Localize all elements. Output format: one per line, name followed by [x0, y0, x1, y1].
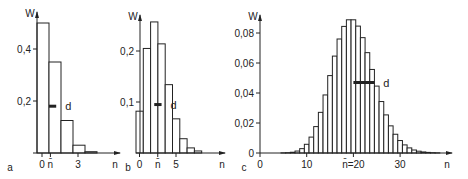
panel-label: a [7, 162, 13, 173]
bar [158, 44, 165, 153]
bar [402, 145, 407, 153]
x-tick-label: 0 [257, 159, 263, 170]
y-axis-arrow-icon [35, 11, 39, 18]
panel-label: b [125, 162, 131, 173]
figure: W0,20,40n̄3nadW0,10,20n̄5nbdW00,020,040,… [0, 0, 468, 179]
bar [332, 56, 337, 153]
x-tick-label: 30 [395, 159, 407, 170]
bar [365, 53, 370, 153]
x-axis-label: n [444, 159, 450, 170]
y-axis-label: W [25, 8, 35, 19]
y-tick-label: 0,4 [17, 44, 31, 55]
bar [393, 134, 398, 153]
d-label: d [383, 77, 389, 89]
bar [407, 148, 412, 153]
chart-panel-a: W0,20,40n̄3nad [7, 8, 121, 173]
bar [356, 26, 361, 153]
x-tick-label: n̄ [155, 158, 161, 170]
y-axis-label: W [248, 11, 258, 22]
bar [309, 137, 314, 153]
bar [143, 48, 150, 153]
bar [151, 22, 158, 153]
bar [379, 102, 384, 153]
bar [346, 20, 351, 153]
bar [173, 119, 180, 153]
bar [342, 26, 347, 153]
x-tick-label: 0 [39, 159, 45, 170]
y-tick-label: 0,08 [235, 28, 255, 39]
bar [351, 20, 356, 153]
bar [360, 38, 365, 153]
y-axis-arrow-icon [138, 14, 142, 21]
x-axis-label: n [219, 159, 225, 170]
x-tick-label: 5 [173, 159, 179, 170]
y-axis-label: W [128, 11, 138, 22]
bar [180, 139, 187, 153]
bar [300, 149, 305, 153]
d-label: d [65, 100, 71, 112]
y-tick-label: 0,2 [120, 46, 134, 57]
bar [398, 141, 403, 153]
x-axis-arrow-icon [114, 151, 121, 155]
y-tick-label: 0,02 [235, 118, 255, 129]
bar [314, 127, 319, 153]
bar [337, 39, 342, 153]
x-axis-arrow-icon [446, 151, 453, 155]
x-tick-label: 0 [137, 159, 143, 170]
x-tick-label: n̄=20 [342, 158, 365, 170]
bar [73, 145, 85, 153]
y-axis-arrow-icon [258, 14, 262, 21]
bar [37, 23, 49, 153]
y-tick-label: 0 [248, 148, 254, 159]
bar [187, 148, 194, 153]
bar [374, 86, 379, 153]
y-tick-label: 0,2 [17, 96, 31, 107]
x-tick-label: 3 [75, 159, 81, 170]
bar [328, 76, 333, 153]
y-tick-label: 0,1 [120, 97, 134, 108]
chart-panel-b: W0,10,20n̄5nbd [120, 11, 226, 173]
bar [304, 144, 309, 153]
bar [388, 126, 393, 153]
x-tick-label: n̄ [48, 158, 54, 170]
chart-panel-c: W00,020,040,060,08010n̄=2030ncd [235, 11, 453, 173]
y-tick-label: 0,04 [235, 88, 255, 99]
bar [323, 95, 328, 153]
bar [318, 112, 323, 153]
bar [384, 115, 389, 153]
x-tick-label: 10 [301, 159, 313, 170]
d-label: d [170, 99, 176, 111]
x-axis-label: n [112, 159, 118, 170]
y-tick-label: 0,06 [235, 58, 255, 69]
bar [61, 121, 73, 154]
panel-label: c [242, 162, 247, 173]
bar [165, 85, 172, 153]
x-axis-arrow-icon [219, 151, 226, 155]
